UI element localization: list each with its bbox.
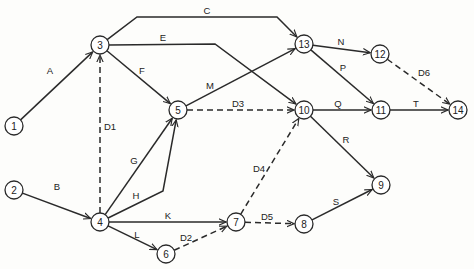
edge-r-arrow bbox=[310, 116, 373, 178]
network-diagram: ABCEFD1MD3GHKLD2D4D5SRQNPD6T 12345678910… bbox=[0, 0, 474, 269]
edge-label: N bbox=[338, 36, 345, 47]
edge-label: F bbox=[139, 65, 145, 76]
node-13: 13 bbox=[295, 35, 313, 53]
edge-h-arrow bbox=[108, 120, 176, 218]
node-number: 3 bbox=[97, 40, 103, 51]
edge-label: H bbox=[133, 190, 140, 201]
node-number: 10 bbox=[298, 105, 310, 116]
node-5: 5 bbox=[169, 101, 187, 119]
node-12: 12 bbox=[371, 45, 389, 63]
edge-label: E bbox=[160, 32, 166, 43]
edge-label: D4 bbox=[253, 163, 265, 174]
node-7: 7 bbox=[227, 213, 245, 231]
node-6: 6 bbox=[157, 245, 175, 263]
edge-label: C bbox=[204, 5, 211, 16]
network-diagram-canvas: ABCEFD1MD3GHKLD2D4D5SRQNPD6T 12345678910… bbox=[0, 0, 474, 269]
edge-label: Q bbox=[334, 98, 341, 109]
edge-p-arrow bbox=[311, 50, 374, 104]
node-number: 5 bbox=[175, 105, 181, 116]
node-number: 4 bbox=[97, 217, 103, 228]
node-9: 9 bbox=[372, 176, 390, 194]
edge-label: D6 bbox=[418, 67, 430, 78]
edge-label: D3 bbox=[232, 98, 244, 109]
edge-label: S bbox=[333, 196, 339, 207]
edge-label: D2 bbox=[180, 232, 192, 243]
node-number: 1 bbox=[11, 121, 17, 132]
node-2: 2 bbox=[5, 181, 23, 199]
edge-label: A bbox=[47, 65, 54, 76]
node-10: 10 bbox=[295, 101, 313, 119]
node-number: 6 bbox=[163, 249, 169, 260]
node-number: 9 bbox=[378, 180, 384, 191]
edge-label: B bbox=[54, 181, 60, 192]
node-number: 13 bbox=[298, 39, 310, 50]
edge-l-arrow bbox=[108, 226, 157, 250]
node-number: 12 bbox=[374, 49, 386, 60]
edge-b-arrow bbox=[22, 193, 90, 218]
node-number: 8 bbox=[301, 219, 307, 230]
edge-e-arrow bbox=[109, 44, 296, 104]
edge-label: T bbox=[413, 98, 419, 109]
edge-label: P bbox=[340, 62, 346, 73]
node-4: 4 bbox=[91, 213, 109, 231]
node-number: 11 bbox=[376, 105, 387, 116]
edge-a-arrow bbox=[21, 52, 93, 120]
edge-d4-dummy-arrow bbox=[241, 119, 299, 215]
node-number: 7 bbox=[233, 217, 239, 228]
node-11: 11 bbox=[372, 101, 390, 119]
node-3: 3 bbox=[91, 36, 109, 54]
edge-f-arrow bbox=[107, 51, 170, 104]
edge-label: M bbox=[206, 80, 214, 91]
node-8: 8 bbox=[295, 215, 313, 233]
edge-label: K bbox=[165, 210, 172, 221]
node-number: 14 bbox=[452, 105, 464, 116]
edge-d5-dummy-arrow bbox=[245, 222, 294, 223]
node-number: 2 bbox=[11, 185, 17, 196]
edge-label: R bbox=[343, 134, 350, 145]
edge-s-arrow bbox=[312, 190, 372, 220]
node-1: 1 bbox=[5, 117, 23, 135]
node-14: 14 bbox=[449, 101, 467, 119]
edge-label: G bbox=[130, 155, 137, 166]
edge-label: D1 bbox=[104, 121, 116, 132]
edge-label: D5 bbox=[261, 211, 273, 222]
edge-label: L bbox=[134, 229, 139, 240]
edge-c-arrow bbox=[107, 17, 297, 40]
